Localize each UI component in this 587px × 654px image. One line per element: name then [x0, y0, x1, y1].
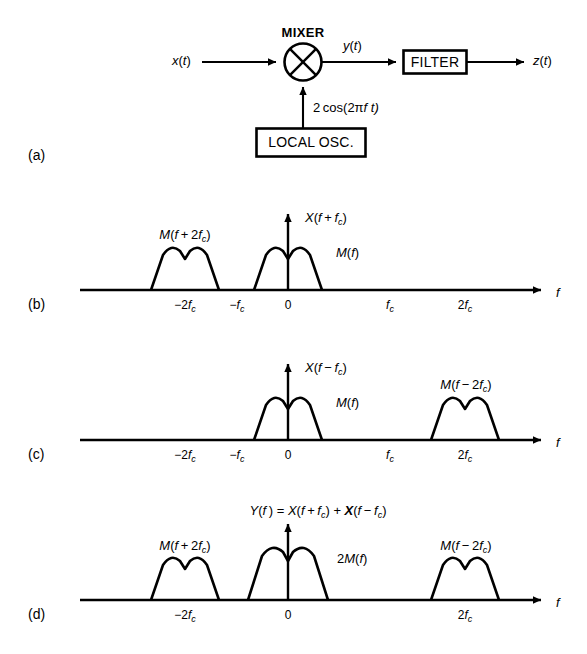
b-tick-neg-2fc: −2fc	[174, 299, 196, 314]
b-tick-zero: 0	[285, 299, 292, 311]
c-tick-neg-fc: −fc	[230, 449, 245, 464]
d-spectrum-right	[431, 558, 499, 600]
output-signal-label: z(t)	[533, 54, 552, 67]
panel-tag-a: (a)	[28, 148, 45, 162]
panel-tag-b: (b)	[28, 297, 45, 311]
c-tick-pos-2fc: 2fc	[458, 449, 473, 464]
d-center-spectrum-label: 2M(f)	[337, 552, 367, 565]
panel-tag-c: (c)	[28, 447, 44, 461]
intermediate-signal-label: y(t)	[343, 39, 362, 52]
c-tick-neg-2fc: −2fc	[174, 449, 196, 464]
b-tick-fc: fc	[386, 299, 394, 314]
spectrum-plot-d	[80, 524, 541, 600]
c-right-spectrum-label: M(f − 2fc)	[440, 378, 491, 394]
d-left-spectrum-label: M(f + 2fc)	[159, 539, 210, 555]
lo-tail: t)	[367, 100, 379, 115]
c-tick-zero: 0	[285, 449, 292, 461]
b-left-spectrum-label: M(f + 2fc)	[159, 228, 210, 244]
b-axis-x-label: f	[556, 286, 560, 299]
b-tick-pos-2fc: 2fc	[458, 299, 473, 314]
signal-mixing-figure: (a) MIXER x(t) y(t) FILTER z(t) 2 cos(2π…	[0, 0, 587, 654]
panel-tag-d: (d)	[28, 607, 45, 621]
c-y-axis-label: X(f − fc)	[305, 361, 347, 377]
mixer-caption: MIXER	[281, 26, 324, 39]
lo-coef: 2 cos(2π	[313, 100, 364, 115]
b-center-spectrum-label: M(f)	[336, 246, 359, 259]
figure-vector-layer	[0, 0, 587, 654]
b-tick-neg-fc: −fc	[230, 299, 245, 314]
input-signal-label: x(t)	[172, 54, 191, 67]
d-equation-label: Y(f ) = X(f + fc) + X(f − fc)	[249, 504, 386, 520]
c-spectrum-right	[431, 398, 499, 440]
d-spectrum-left	[151, 558, 219, 600]
filter-label: FILTER	[411, 55, 459, 69]
d-tick-neg-2fc: −2fc	[174, 609, 196, 624]
c-tick-fc: fc	[386, 449, 394, 464]
d-axis-x-label: f	[556, 596, 560, 609]
d-tick-pos-2fc: 2fc	[458, 609, 473, 624]
d-right-spectrum-label: M(f − 2fc)	[440, 539, 491, 555]
b-y-axis-label: X(f + fc)	[305, 211, 347, 227]
local-oscillator-signal-label: 2 cos(2πf t)	[313, 101, 379, 114]
c-center-spectrum-label: M(f)	[336, 396, 359, 409]
d-tick-zero: 0	[285, 609, 292, 621]
local-oscillator-label: LOCAL OSC.	[268, 135, 354, 149]
b-spectrum-left	[151, 248, 219, 290]
c-axis-x-label: f	[556, 436, 560, 449]
